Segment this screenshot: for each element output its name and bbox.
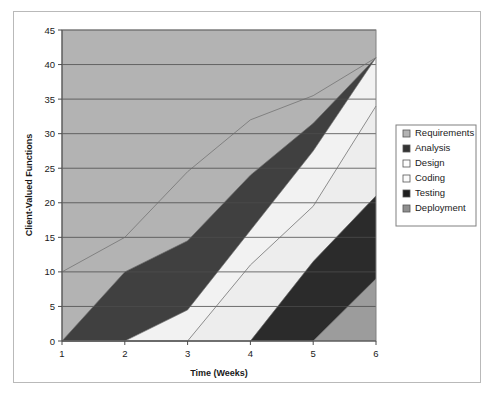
- chart-legend: RequirementsAnalysisDesignCodingTestingD…: [396, 125, 476, 226]
- x-tick-label: 5: [311, 348, 316, 359]
- area-chart: 051015202530354045 123456 Client-Valued …: [14, 12, 480, 382]
- y-tick-label: 15: [44, 232, 55, 243]
- legend-swatch-coding: [403, 175, 410, 182]
- y-tick-label: 30: [44, 128, 55, 139]
- legend-label-requirements: Requirements: [415, 127, 474, 138]
- chart-frame: 051015202530354045 123456 Client-Valued …: [13, 11, 481, 383]
- x-axis-ticks: 123456: [59, 341, 378, 359]
- x-tick-label: 4: [248, 348, 253, 359]
- legend-label-design: Design: [415, 157, 445, 168]
- x-tick-label: 3: [185, 348, 190, 359]
- y-tick-label: 40: [44, 59, 55, 70]
- x-axis-title: Time (Weeks): [190, 368, 248, 378]
- y-axis-title: Client-Valued Functions: [24, 134, 34, 237]
- x-tick-label: 1: [59, 348, 64, 359]
- y-tick-label: 10: [44, 266, 55, 277]
- legend-label-coding: Coding: [415, 172, 445, 183]
- legend-label-testing: Testing: [415, 187, 445, 198]
- y-tick-label: 20: [44, 197, 55, 208]
- x-tick-label: 2: [122, 348, 127, 359]
- y-axis-ticks: 051015202530354045: [44, 25, 62, 347]
- screenshot-root: 051015202530354045 123456 Client-Valued …: [0, 0, 495, 395]
- legend-swatch-design: [403, 160, 410, 167]
- y-tick-label: 5: [50, 301, 55, 312]
- y-tick-label: 35: [44, 94, 55, 105]
- legend-swatch-analysis: [403, 145, 410, 152]
- legend-label-deployment: Deployment: [415, 202, 466, 213]
- y-tick-label: 0: [50, 336, 55, 347]
- legend-swatch-requirements: [403, 130, 410, 137]
- y-tick-label: 25: [44, 163, 55, 174]
- legend-swatch-deployment: [403, 205, 410, 212]
- legend-swatch-testing: [403, 190, 410, 197]
- y-tick-label: 45: [44, 25, 55, 36]
- legend-label-analysis: Analysis: [415, 142, 451, 153]
- x-tick-label: 6: [373, 348, 378, 359]
